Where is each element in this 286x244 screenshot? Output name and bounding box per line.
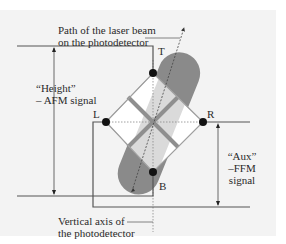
beam-path-label-line2: on the photodetector bbox=[58, 36, 156, 48]
vertical-axis-label-line1: Vertical axis of bbox=[58, 215, 135, 227]
point-b-label: B bbox=[159, 180, 166, 192]
aux-label-line1: “Aux” bbox=[222, 150, 262, 162]
beam-path-label-line1: Path of the laser beam bbox=[58, 24, 156, 36]
height-signal-label: “Height” – AFM signal bbox=[36, 82, 97, 106]
top-reference-line bbox=[17, 46, 153, 73]
point-l-label: L bbox=[93, 108, 100, 120]
vertical-axis-label: Vertical axis of the photodetector bbox=[58, 215, 135, 239]
point-t-dot bbox=[149, 69, 157, 77]
aux-label-line2: –FFM bbox=[222, 162, 262, 174]
height-label-line1: “Height” bbox=[36, 82, 97, 94]
point-t-label: T bbox=[158, 45, 165, 57]
height-label-line2: – AFM signal bbox=[36, 94, 97, 106]
aux-label-line3: signal bbox=[222, 174, 262, 186]
aux-signal-label: “Aux” –FFM signal bbox=[222, 150, 262, 186]
beam-path-label: Path of the laser beam on the photodetec… bbox=[58, 24, 156, 48]
point-l-dot bbox=[102, 118, 110, 126]
vertical-axis-label-line2: the photodetector bbox=[58, 227, 135, 239]
point-b-dot bbox=[149, 168, 157, 176]
point-r-label: R bbox=[207, 108, 214, 120]
point-r-dot bbox=[199, 118, 207, 126]
